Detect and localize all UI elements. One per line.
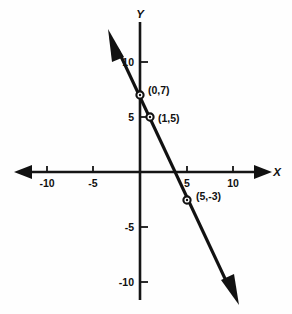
y-tick-label-neg5: -5	[125, 221, 134, 233]
point-5-neg3: (5,-3)	[183, 190, 221, 204]
x-tick-label-5: 5	[184, 177, 190, 189]
point-center-dot	[186, 199, 188, 201]
plot-svg: -10 -5 5 10 X 10 5 -5 -10 Y	[0, 0, 292, 314]
x-tick-label-neg5: -5	[88, 177, 97, 189]
point-label-1-5: (1,5)	[158, 112, 180, 124]
y-tick-label-neg10: -10	[119, 276, 134, 288]
y-axis-label: Y	[136, 8, 145, 20]
point-center-dot	[149, 116, 151, 118]
coordinate-plane-graph: -10 -5 5 10 X 10 5 -5 -10 Y	[0, 0, 292, 314]
point-label-5-neg3: (5,-3)	[196, 190, 221, 202]
y-tick-label-5: 5	[128, 111, 134, 123]
x-axis-right-arrowhead	[254, 165, 272, 179]
point-0-7: (0,7)	[136, 84, 169, 99]
function-line	[118, 50, 228, 285]
x-axis-label: X	[272, 166, 282, 178]
x-axis-left-arrowhead	[14, 165, 32, 179]
x-tick-label-neg10: -10	[39, 177, 54, 189]
x-axis: -10 -5 5 10 X	[14, 165, 282, 189]
line-upper-left-arrowhead	[108, 29, 124, 62]
y-axis: 10 5 -5 -10 Y	[119, 8, 148, 300]
line-series	[108, 29, 239, 305]
point-center-dot	[139, 94, 141, 96]
point-label-0-7: (0,7)	[148, 84, 170, 96]
x-tick-label-10: 10	[227, 177, 239, 189]
